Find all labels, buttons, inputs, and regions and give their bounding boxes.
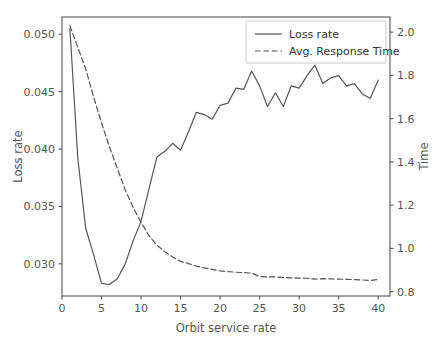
x-tick-label: 20 <box>213 302 227 315</box>
legend-label-2: Avg. Response Time <box>289 45 400 58</box>
y-tick-label: 0.045 <box>24 86 56 99</box>
y2-tick-label: 2.0 <box>397 26 415 39</box>
x-tick-label: 40 <box>371 302 385 315</box>
y-axis-left-label: Loss rate <box>11 130 25 182</box>
chart-legend: Loss rateAvg. Response Time <box>246 21 400 63</box>
series-line-1 <box>70 28 378 284</box>
y2-tick-label: 0.8 <box>397 286 415 299</box>
y-tick-label: 0.050 <box>24 28 56 41</box>
y2-tick-label: 1.4 <box>397 156 415 169</box>
x-tick-label: 0 <box>59 302 66 315</box>
x-tick-label: 25 <box>253 302 267 315</box>
x-tick-label: 15 <box>174 302 188 315</box>
y-tick-label: 0.040 <box>24 143 56 156</box>
y-axis-right-label: Time <box>417 142 431 171</box>
legend-label-1: Loss rate <box>289 28 339 41</box>
y2-tick-label: 1.6 <box>397 113 415 126</box>
x-tick-label: 30 <box>292 302 306 315</box>
x-tick-label: 10 <box>134 302 148 315</box>
x-axis-label: Orbit service rate <box>176 321 277 335</box>
y-axis-right-ticks: 0.81.01.21.41.61.82.0 <box>390 26 415 299</box>
chart-figure: 0510152025303540 0.0300.0350.0400.0450.0… <box>0 0 444 344</box>
y2-tick-label: 1.2 <box>397 199 415 212</box>
y-axis-left-ticks: 0.0300.0350.0400.0450.050 <box>24 28 63 271</box>
x-tick-label: 35 <box>332 302 346 315</box>
y-tick-label: 0.030 <box>24 258 56 271</box>
y2-tick-label: 1.0 <box>397 242 415 255</box>
x-tick-label: 5 <box>98 302 105 315</box>
x-axis-ticks: 0510152025303540 <box>59 296 386 315</box>
y2-tick-label: 1.8 <box>397 69 415 82</box>
data-series <box>70 26 378 285</box>
y-tick-label: 0.035 <box>24 200 56 213</box>
line-chart: 0510152025303540 0.0300.0350.0400.0450.0… <box>0 0 444 344</box>
series-line-2 <box>70 26 378 281</box>
